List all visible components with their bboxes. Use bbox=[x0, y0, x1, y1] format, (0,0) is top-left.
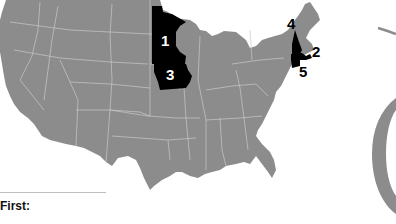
rank-label-2: 2 bbox=[312, 44, 320, 59]
us-map bbox=[0, 0, 396, 224]
rank-label-3: 3 bbox=[166, 67, 174, 82]
rank-label-4: 4 bbox=[287, 16, 295, 31]
ring-arc-top bbox=[378, 28, 396, 34]
state-massachusetts[interactable] bbox=[291, 53, 312, 60]
legend-divider bbox=[0, 192, 106, 193]
ring-arc bbox=[372, 98, 396, 214]
legend-heading: First: bbox=[0, 199, 30, 213]
rank-label-5: 5 bbox=[299, 64, 307, 79]
rank-label-1: 1 bbox=[161, 33, 169, 48]
